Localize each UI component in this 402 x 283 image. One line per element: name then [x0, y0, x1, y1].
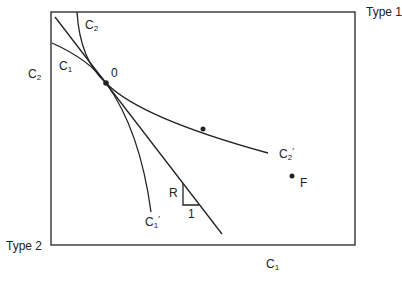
point-f: [290, 174, 295, 179]
tangent-point-0: [103, 80, 109, 86]
axis-label-left: C2: [28, 68, 41, 82]
slope-label-r: R: [169, 187, 178, 199]
curve-c2-start-label: C2: [85, 19, 98, 33]
curve-c1-end-label: C1′: [145, 215, 160, 230]
corner-label-type2: Type 2: [6, 240, 42, 252]
slope-label-1: 1: [188, 208, 195, 220]
curve-c1-start-label: C1: [59, 60, 72, 74]
point-f-label: F: [300, 177, 307, 189]
interior-point: [201, 127, 206, 132]
budget-line: [55, 17, 222, 234]
tangent-point-label: 0: [111, 67, 118, 79]
corner-label-type1: Type 1: [366, 6, 402, 18]
curve-c2-end-label: C2′: [279, 147, 294, 162]
axis-label-bottom: C1: [266, 258, 279, 272]
